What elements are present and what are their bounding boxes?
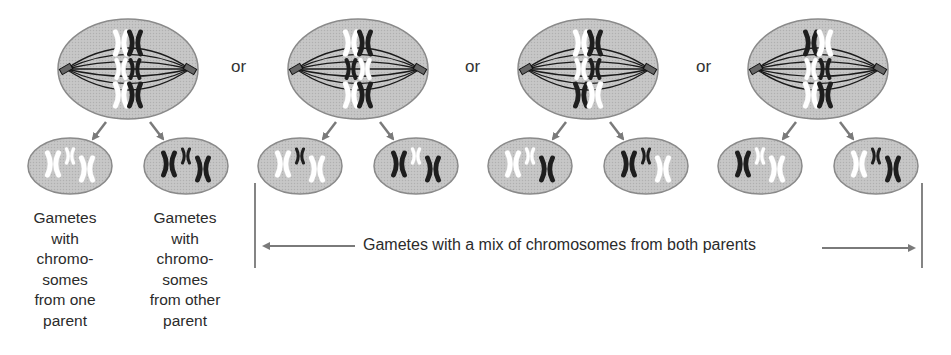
caption-line: with bbox=[130, 229, 240, 250]
arrow-icon bbox=[840, 122, 853, 139]
metaphase-cell-2 bbox=[288, 19, 428, 119]
caption-line: somes bbox=[130, 270, 240, 291]
gamete-cell bbox=[604, 138, 688, 194]
caption-line: parent bbox=[130, 311, 240, 332]
caption-line: chromo- bbox=[130, 249, 240, 270]
arrow-icon bbox=[783, 122, 796, 139]
caption-line: from other bbox=[130, 290, 240, 311]
arrow-icon bbox=[553, 122, 566, 139]
caption-line: Gametes bbox=[130, 208, 240, 229]
metaphase-cell-3 bbox=[518, 19, 658, 119]
arrow-icon bbox=[323, 122, 336, 139]
gamete-cell bbox=[488, 138, 572, 194]
gamete-cell bbox=[834, 138, 918, 194]
gamete-cell bbox=[374, 138, 458, 194]
caption-line: from one bbox=[10, 290, 120, 311]
gamete-cell bbox=[718, 138, 802, 194]
gamete-cell bbox=[28, 138, 112, 194]
or-label-3: or bbox=[696, 57, 711, 77]
arrow-icon bbox=[610, 122, 623, 139]
arrow-icon bbox=[150, 122, 163, 139]
caption-other-parent: Gametes with chromo- somes from other pa… bbox=[130, 208, 240, 331]
gamete-cell bbox=[258, 138, 342, 194]
caption-line: somes bbox=[10, 270, 120, 291]
caption-mix: Gametes with a mix of chromosomes from b… bbox=[359, 236, 760, 254]
arrow-icon bbox=[93, 122, 106, 139]
caption-line: Gametes bbox=[10, 208, 120, 229]
metaphase-cell-1 bbox=[58, 19, 198, 119]
mix-bracket bbox=[255, 183, 922, 268]
arrow-icon bbox=[380, 122, 393, 139]
caption-line: parent bbox=[10, 311, 120, 332]
or-label-2: or bbox=[465, 57, 480, 77]
or-label-1: or bbox=[231, 57, 246, 77]
caption-line: chromo- bbox=[10, 249, 120, 270]
gamete-cell bbox=[144, 138, 228, 194]
meiosis-diagram: or or or Gametes with chromo- somes from… bbox=[0, 0, 951, 355]
caption-one-parent: Gametes with chromo- somes from one pare… bbox=[10, 208, 120, 331]
caption-line: with bbox=[10, 229, 120, 250]
metaphase-cell-4 bbox=[748, 19, 888, 119]
